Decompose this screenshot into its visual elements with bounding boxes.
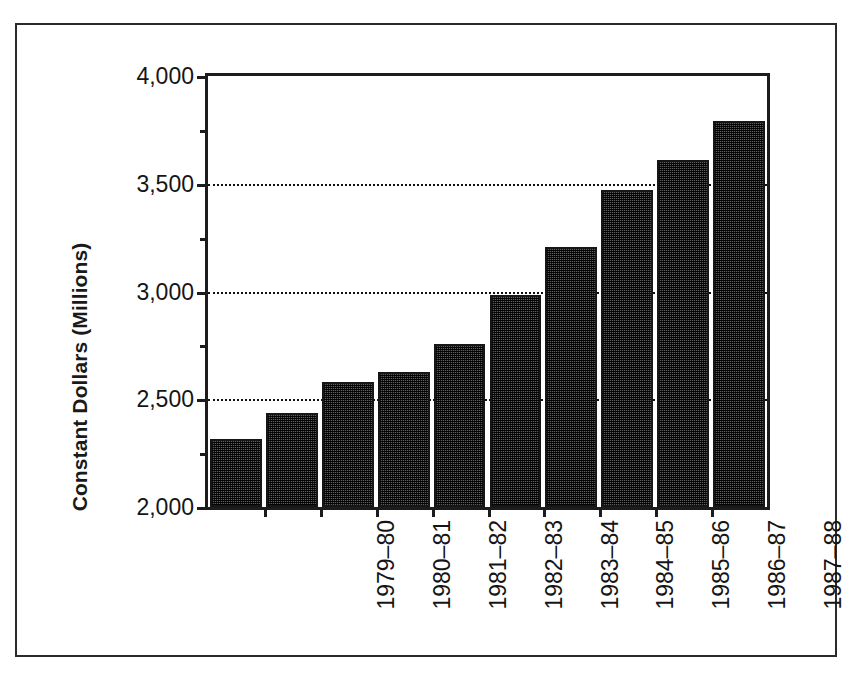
- x-tick-label: 1981–82: [485, 520, 511, 670]
- y-tick-3000: [197, 292, 208, 295]
- x-tick-label: 1985–86: [708, 520, 734, 670]
- y-axis-title: Constant Dollars (Millions): [67, 159, 93, 596]
- y-tick-label-3500: 3,500: [74, 173, 194, 196]
- bar: [434, 344, 486, 507]
- x-tick-label: 1980–81: [429, 520, 455, 670]
- x-tick: [655, 507, 658, 517]
- bar: [601, 190, 653, 507]
- plot-inner: [208, 76, 767, 507]
- bar: [490, 295, 542, 507]
- x-tick-label: 1987–88: [820, 520, 846, 670]
- x-tick-label: 1982–83: [541, 520, 567, 670]
- y-tick-label-3000: 3,000: [74, 281, 194, 304]
- y-minor-tick-2250: [200, 453, 208, 456]
- y-minor-tick-3750: [200, 130, 208, 133]
- y-minor-tick-3250: [200, 238, 208, 241]
- y-tick-4000: [197, 76, 208, 79]
- chart-page: Constant Dollars (Millions) 2,0002,5003,…: [0, 0, 853, 677]
- x-tick-label: 1979–80: [373, 520, 399, 670]
- x-tick: [488, 507, 491, 517]
- bar-chart-figure: Constant Dollars (Millions) 2,0002,5003,…: [0, 0, 853, 677]
- x-tick: [543, 507, 546, 517]
- x-tick: [599, 507, 602, 517]
- bar: [545, 247, 597, 507]
- y-tick-2500: [197, 399, 208, 402]
- bar: [322, 382, 374, 507]
- x-tick-label: 1983–84: [597, 520, 623, 670]
- y-tick-2000: [197, 507, 208, 510]
- plot-area: [205, 73, 770, 510]
- bar: [657, 160, 709, 507]
- y-tick-label-4000: 4,000: [74, 65, 194, 88]
- x-tick: [432, 507, 435, 517]
- bar: [713, 121, 765, 507]
- bar: [266, 413, 318, 507]
- y-tick-3500: [197, 184, 208, 187]
- y-minor-tick-2750: [200, 345, 208, 348]
- y-tick-label-2500: 2,500: [74, 388, 194, 411]
- x-tick-label: 1986–87: [764, 520, 790, 670]
- x-tick: [711, 507, 714, 517]
- x-tick: [376, 507, 379, 517]
- x-tick: [320, 507, 323, 517]
- y-tick-label-2000: 2,000: [74, 496, 194, 519]
- x-tick-label: 1984–85: [652, 520, 678, 670]
- bar: [210, 439, 262, 507]
- x-tick: [264, 507, 267, 517]
- bar: [378, 372, 430, 507]
